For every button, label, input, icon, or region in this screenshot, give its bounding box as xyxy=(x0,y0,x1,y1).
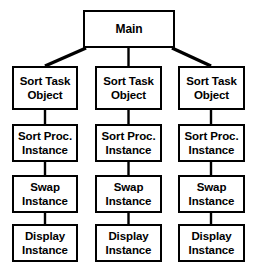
node-display-instance-2[interactable]: Display Instance xyxy=(95,224,162,262)
node-sort-proc-instance-3[interactable]: Sort Proc. Instance xyxy=(178,124,245,162)
node-label-line-2: Instance xyxy=(189,243,235,258)
node-label-line-2: Instance xyxy=(189,194,235,209)
node-label-line-1: Sort Proc. xyxy=(185,129,239,144)
node-swap-instance-1[interactable]: Swap Instance xyxy=(12,175,78,213)
node-swap-instance-2[interactable]: Swap Instance xyxy=(95,175,162,213)
node-sort-proc-instance-1[interactable]: Sort Proc. Instance xyxy=(12,124,78,162)
node-label-line-1: Display xyxy=(25,229,65,244)
node-label-line-2: Instance xyxy=(22,143,68,158)
connector-main-to-column-3 xyxy=(172,48,211,66)
node-sort-proc-instance-2[interactable]: Sort Proc. Instance xyxy=(95,124,162,162)
node-label-line-1: Swap xyxy=(114,180,144,195)
node-label-line-2: Instance xyxy=(22,194,68,209)
hierarchy-diagram: Main Sort Task Object Sort Proc. Instanc… xyxy=(0,0,258,267)
node-label-line-2: Instance xyxy=(189,143,235,158)
node-label-line-1: Swap xyxy=(30,180,60,195)
node-sort-task-object-2[interactable]: Sort Task Object xyxy=(95,66,162,110)
node-swap-instance-3[interactable]: Swap Instance xyxy=(178,175,245,213)
node-label-line-2: Object xyxy=(111,88,146,103)
node-sort-task-object-1[interactable]: Sort Task Object xyxy=(12,66,78,110)
connector-main-to-column-1 xyxy=(45,48,86,66)
node-label-line-2: Instance xyxy=(106,194,152,209)
node-main-line-1: Main xyxy=(116,22,143,37)
node-display-instance-3[interactable]: Display Instance xyxy=(178,224,245,262)
node-sort-task-object-3[interactable]: Sort Task Object xyxy=(178,66,245,110)
node-label-line-1: Sort Task xyxy=(186,74,237,89)
node-display-instance-1[interactable]: Display Instance xyxy=(12,224,78,262)
node-label-line-2: Instance xyxy=(106,143,152,158)
node-label-line-2: Object xyxy=(27,88,62,103)
node-label-line-1: Swap xyxy=(197,180,227,195)
node-label-line-1: Display xyxy=(191,229,231,244)
node-label-line-1: Display xyxy=(108,229,148,244)
node-label-line-1: Sort Task xyxy=(103,74,154,89)
node-label-line-2: Object xyxy=(194,88,229,103)
node-label-line-1: Sort Proc. xyxy=(102,129,156,144)
node-label-line-2: Instance xyxy=(106,243,152,258)
node-main[interactable]: Main xyxy=(83,10,175,48)
node-label-line-2: Instance xyxy=(22,243,68,258)
node-label-line-1: Sort Proc. xyxy=(18,129,72,144)
node-label-line-1: Sort Task xyxy=(20,74,71,89)
